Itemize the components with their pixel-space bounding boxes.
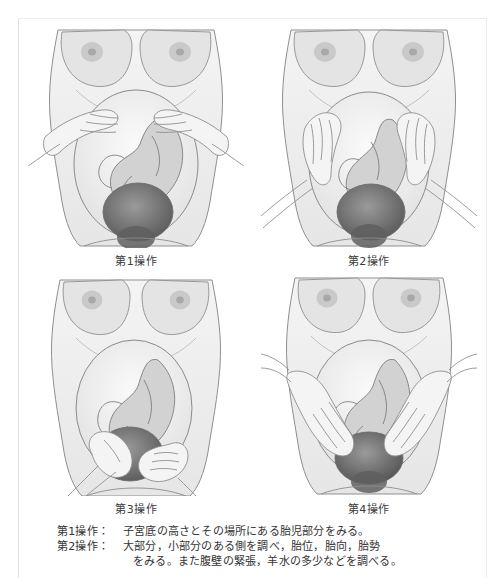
panel-maneuver-1: 第1操作 xyxy=(20,16,253,268)
illustration-maneuver-1 xyxy=(20,16,253,250)
panel-label-maneuver-4: 第4操作 xyxy=(253,503,486,516)
panel-label-maneuver-1: 第1操作 xyxy=(20,255,253,268)
caption-line-3: をみる。また腹壁の緊張，羊水の多少などを調べる。 xyxy=(57,554,457,569)
caption-text-1: 子宮底の高さとその場所にある胎児部分をみる。 xyxy=(123,525,369,538)
illustration-maneuver-2 xyxy=(253,16,486,250)
caption-key-1: 第1操作： xyxy=(57,524,123,539)
caption-line-2: 第2操作：大部分，小部分のある側を調べ，胎位，胎向，胎勢 xyxy=(57,539,457,554)
caption-line-1: 第1操作：子宮底の高さとその場所にある胎児部分をみる。 xyxy=(57,524,457,539)
panel-maneuver-3: 第3操作 xyxy=(20,268,253,516)
figure-caption: 第1操作：子宮底の高さとその場所にある胎児部分をみる。 第2操作：大部分，小部分… xyxy=(57,524,457,569)
caption-text-3: をみる。また腹壁の緊張，羊水の多少などを調べる。 xyxy=(133,555,402,568)
panel-label-maneuver-3: 第3操作 xyxy=(20,503,253,516)
panel-grid: 第1操作 xyxy=(20,16,485,516)
caption-text-2: 大部分，小部分のある側を調べ，胎位，胎向，胎勢 xyxy=(123,540,381,553)
caption-key-2: 第2操作： xyxy=(57,539,123,554)
panel-label-maneuver-2: 第2操作 xyxy=(253,255,486,268)
illustration-maneuver-4 xyxy=(253,268,486,498)
panel-maneuver-2: 第2操作 xyxy=(253,16,486,268)
illustration-maneuver-3 xyxy=(20,268,253,498)
panel-maneuver-4: 第4操作 xyxy=(253,268,486,516)
